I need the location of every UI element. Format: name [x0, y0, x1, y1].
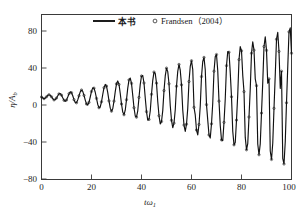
x-tick-label-20: 20 — [87, 182, 97, 192]
y-tick-label-0: 0 — [33, 100, 38, 110]
y-tick-label-40: 40 — [28, 63, 38, 73]
x-tick-label-60: 60 — [187, 182, 197, 192]
x-axis-title-sub: 1 — [153, 201, 156, 208]
y-tick-label-80: 80 — [28, 26, 38, 36]
chart-figure: 80 40 0 −40 −80 0 20 40 60 80 100 tω1 — [0, 0, 302, 218]
x-axis-title-main: tω — [144, 197, 153, 207]
legend-label-frandsen: Frandsen（2004） — [161, 16, 228, 26]
legend-label-benshu: 本书 — [118, 16, 136, 27]
y-tick-label-minus80: −80 — [23, 174, 38, 184]
y-axis-title-main: η/A — [7, 95, 17, 108]
oscillation-chart: 80 40 0 −40 −80 0 20 40 60 80 100 tω1 — [0, 0, 302, 218]
x-tick-label-80: 80 — [237, 182, 247, 192]
x-tick-label-0: 0 — [39, 182, 44, 192]
y-tick-label-minus40: −40 — [23, 137, 38, 147]
x-tick-label-40: 40 — [137, 182, 147, 192]
x-tick-label-100: 100 — [282, 182, 296, 192]
